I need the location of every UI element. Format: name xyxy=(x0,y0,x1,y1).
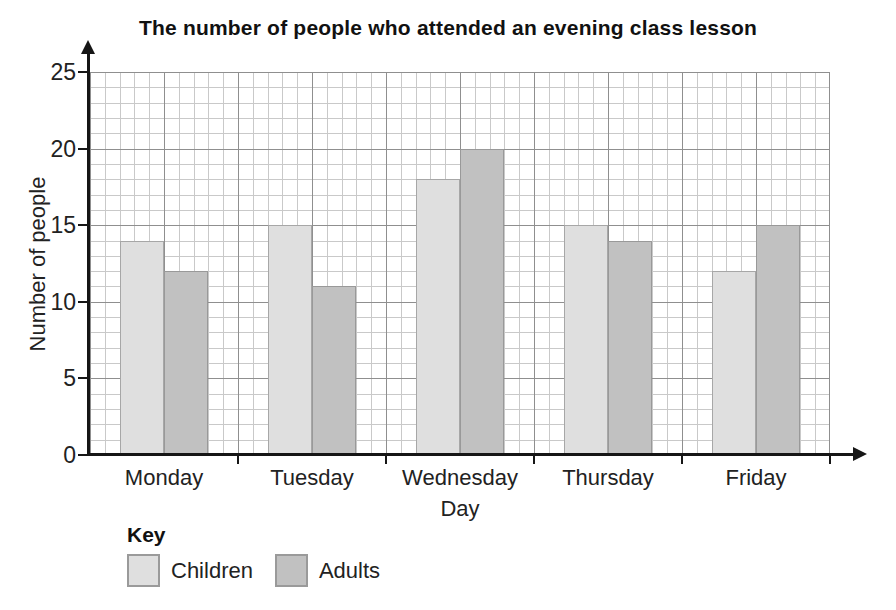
legend-label-adults: Adults xyxy=(319,558,380,584)
y-tick-20 xyxy=(78,148,88,150)
y-axis-arrow-icon xyxy=(81,40,95,54)
x-tick-5 xyxy=(829,456,831,464)
y-tick-label-0: 0 xyxy=(24,443,76,467)
bar-wednesday-children xyxy=(416,179,460,455)
legend-swatch-adults xyxy=(275,554,308,587)
legend-items: ChildrenAdults xyxy=(127,554,394,587)
legend-item-adults: Adults xyxy=(275,554,394,587)
y-tick-label-10: 10 xyxy=(24,290,76,314)
x-axis-label: Day xyxy=(386,496,534,522)
x-tick-2 xyxy=(385,456,387,464)
bar-tuesday-children xyxy=(268,225,312,455)
y-tick-label-20: 20 xyxy=(24,137,76,161)
x-category-label-tuesday: Tuesday xyxy=(238,465,386,491)
bar-tuesday-adults xyxy=(312,286,356,455)
x-tick-3 xyxy=(533,456,535,464)
y-tick-label-25: 25 xyxy=(24,60,76,84)
x-category-label-monday: Monday xyxy=(90,465,238,491)
bar-monday-adults xyxy=(164,271,208,455)
y-tick-15 xyxy=(78,224,88,226)
legend: Key ChildrenAdults xyxy=(127,523,394,587)
plot-area xyxy=(90,72,830,455)
y-tick-label-5: 5 xyxy=(24,366,76,390)
y-axis-label: Number of people xyxy=(25,177,51,352)
chart-title: The number of people who attended an eve… xyxy=(0,16,896,40)
chart-figure: The number of people who attended an eve… xyxy=(0,0,896,610)
bar-wednesday-adults xyxy=(460,149,504,455)
bar-thursday-adults xyxy=(608,241,652,455)
y-tick-10 xyxy=(78,301,88,303)
bar-friday-adults xyxy=(756,225,800,455)
bar-thursday-children xyxy=(564,225,608,455)
bar-friday-children xyxy=(712,271,756,455)
legend-label-children: Children xyxy=(171,558,253,584)
x-axis-arrow-icon xyxy=(853,447,867,461)
y-tick-label-15: 15 xyxy=(24,213,76,237)
y-tick-0 xyxy=(78,454,88,456)
x-category-label-friday: Friday xyxy=(682,465,830,491)
bar-monday-children xyxy=(120,241,164,455)
x-category-label-wednesday: Wednesday xyxy=(386,465,534,491)
x-axis-line xyxy=(87,453,855,456)
y-tick-5 xyxy=(78,377,88,379)
legend-swatch-children xyxy=(127,554,160,587)
y-tick-25 xyxy=(78,71,88,73)
x-category-label-thursday: Thursday xyxy=(534,465,682,491)
y-axis-line xyxy=(87,52,90,456)
legend-item-children: Children xyxy=(127,554,253,587)
x-tick-4 xyxy=(681,456,683,464)
legend-title: Key xyxy=(127,523,394,547)
x-tick-1 xyxy=(237,456,239,464)
